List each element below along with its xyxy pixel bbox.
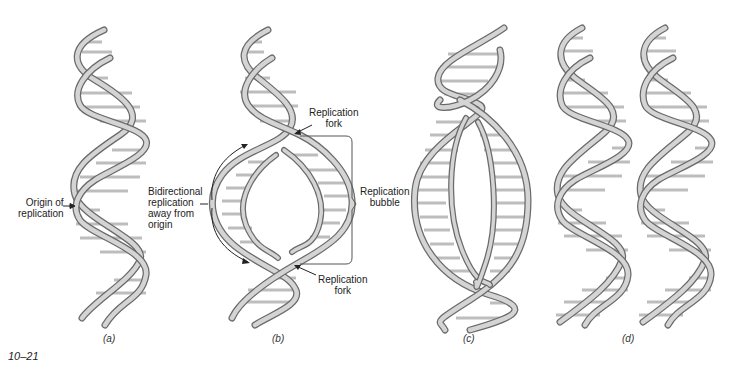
bubble-line1: Replication — [360, 186, 409, 197]
bidirectional-line1: Bidirectional — [148, 186, 202, 197]
fork-top-label: Replication fork — [309, 107, 358, 129]
helix-c-rungs — [418, 54, 525, 318]
bubble-line2: bubble — [360, 197, 409, 208]
fork-bottom-label: Replication fork — [318, 274, 367, 296]
origin-label-line2: replication — [18, 208, 64, 219]
origin-label-line1: Origin of — [18, 197, 64, 208]
origin-label: Origin of replication — [18, 197, 64, 219]
fork-bottom-line2: fork — [318, 285, 367, 296]
bidirectional-label: Bidirectional replication away from orig… — [148, 186, 202, 230]
bidirectional-line3: away from — [148, 208, 202, 219]
panel-label-d: (d) — [622, 333, 634, 344]
bubble-label: Replication bubble — [360, 186, 409, 208]
panel-label-c: (c) — [463, 333, 475, 344]
panel-label-b: (b) — [272, 333, 284, 344]
figure-number: 10–21 — [8, 350, 39, 362]
helix-d-right — [639, 28, 713, 325]
helix-c-strands — [414, 28, 528, 330]
helix-b-rungs — [222, 42, 348, 302]
bidirectional-line4: origin — [148, 219, 202, 230]
fork-top-line2: fork — [309, 118, 358, 129]
helix-d-left — [556, 28, 630, 325]
bidirectional-line2: replication — [148, 197, 202, 208]
fork-top-line1: Replication — [309, 107, 358, 118]
fork-bottom-line1: Replication — [318, 274, 367, 285]
panel-label-a: (a) — [103, 333, 115, 344]
